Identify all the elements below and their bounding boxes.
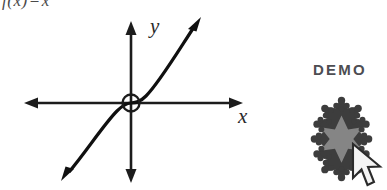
x-axis-label: x <box>238 104 247 129</box>
mouse-pointer-icon <box>348 141 387 190</box>
demo-watermark-label: DEMO <box>313 61 367 78</box>
y-axis-label: y <box>150 14 159 39</box>
curve-lower-arrowhead <box>61 167 74 182</box>
cursor-arrow-path <box>353 144 380 185</box>
y-axis-bottom-arrowhead <box>126 169 137 183</box>
mouse-cursor-container <box>348 141 387 190</box>
y-axis-top-arrowhead <box>126 21 137 35</box>
x-axis-left-arrowhead <box>24 98 38 109</box>
figure-canvas: f(x)=x3 y x DEMO <box>0 0 387 190</box>
curve-upper-arrowhead <box>188 17 201 32</box>
